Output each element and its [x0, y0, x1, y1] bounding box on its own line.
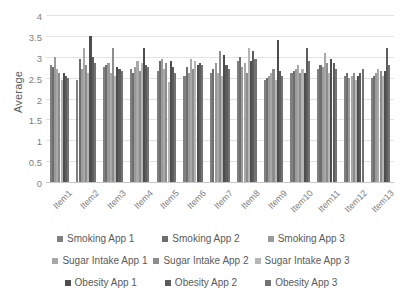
legend-item[interactable]: Smoking App 1 [57, 234, 134, 244]
bar-group [46, 16, 73, 182]
bar [67, 78, 69, 182]
bar [281, 76, 283, 182]
bar-group [153, 16, 180, 182]
y-axis-tick-label: 3.5 [2, 31, 42, 42]
legend-item[interactable]: Obesity App 1 [65, 278, 137, 288]
legend-label: Smoking App 3 [278, 234, 345, 244]
x-axis-line [46, 182, 394, 183]
legend-item[interactable]: Smoking App 2 [162, 234, 239, 244]
legend-swatch-icon [65, 280, 71, 286]
legend-label: Smoking App 1 [67, 234, 134, 244]
legend-item[interactable]: Smoking App 3 [268, 234, 345, 244]
legend-row: Sugar Intake App 1Sugar Intake App 2Suga… [0, 250, 402, 272]
x-axis-tick-label: Item13 [369, 188, 396, 215]
bar-group [314, 16, 341, 182]
legend-swatch-icon [265, 280, 271, 286]
bar [228, 69, 230, 182]
bar-group [367, 16, 394, 182]
y-axis-tick-label: 4 [2, 11, 42, 22]
legend-label: Smoking App 2 [172, 234, 239, 244]
y-axis-tick-label: 3 [2, 52, 42, 63]
x-axis-tick-label: Item5 [159, 188, 182, 211]
x-axis-tick-label: Item7 [212, 188, 235, 211]
bar [388, 65, 390, 182]
bar-group [207, 16, 234, 182]
legend-item[interactable]: Obesity App 2 [165, 278, 237, 288]
legend-label: Obesity App 3 [275, 278, 337, 288]
bar [201, 65, 203, 182]
y-axis-tick-label: 2 [2, 94, 42, 105]
x-axis-tick-label: Item3 [105, 188, 128, 211]
legend-item[interactable]: Sugar Intake App 3 [255, 256, 350, 266]
legend-item[interactable]: Obesity App 3 [265, 278, 337, 288]
bar-group [233, 16, 260, 182]
x-axis-tick-label: Item1 [51, 188, 74, 211]
y-axis-tick-label: 0.5 [2, 157, 42, 168]
legend-item[interactable]: Sugar Intake App 1 [52, 256, 147, 266]
bar [174, 73, 176, 182]
bar-group [180, 16, 207, 182]
y-axis-tick-labels: 00.511.522.533.54 [0, 16, 42, 183]
y-axis-tick-label: 1.5 [2, 115, 42, 126]
bar-chart: Average 00.511.522.533.54 Item1Item2Item… [0, 0, 402, 305]
x-axis-tick-labels: Item1Item2Item3Item4Item5Item6Item7Item8… [46, 184, 394, 230]
legend-swatch-icon [153, 258, 159, 264]
bar-group [287, 16, 314, 182]
bar-group [73, 16, 100, 182]
bar [362, 69, 364, 182]
legend-label: Sugar Intake App 1 [62, 256, 147, 266]
bar [94, 63, 96, 182]
legend-label: Obesity App 2 [175, 278, 237, 288]
legend-label: Sugar Intake App 2 [163, 256, 248, 266]
legend-row: Obesity App 1Obesity App 2Obesity App 3 [0, 272, 402, 294]
bar [147, 67, 149, 182]
bar [254, 59, 256, 182]
x-axis-tick-label: Item6 [185, 188, 208, 211]
bar-group [100, 16, 127, 182]
y-axis-tick-label: 0 [2, 178, 42, 189]
legend-item[interactable]: Sugar Intake App 2 [153, 256, 248, 266]
legend-swatch-icon [165, 280, 171, 286]
x-axis-tick-label: Item12 [342, 188, 369, 215]
bar-group [126, 16, 153, 182]
bar-group [340, 16, 367, 182]
legend-swatch-icon [268, 236, 274, 242]
x-axis-tick-label: Item8 [239, 188, 262, 211]
legend-label: Sugar Intake App 3 [265, 256, 350, 266]
legend-swatch-icon [52, 258, 58, 264]
x-axis-tick-label: Item11 [316, 188, 342, 214]
x-axis-tick-label: Item10 [289, 188, 316, 215]
x-axis-tick-label: Item2 [78, 188, 101, 211]
bar [121, 71, 123, 182]
bar-group [260, 16, 287, 182]
bar-groups [46, 16, 394, 182]
chart-legend: Smoking App 1Smoking App 2Smoking App 3S… [0, 228, 402, 294]
legend-swatch-icon [162, 236, 168, 242]
legend-swatch-icon [57, 236, 63, 242]
bar [308, 61, 310, 182]
y-axis-tick-label: 2.5 [2, 73, 42, 84]
bar [335, 69, 337, 182]
x-axis-tick-label: Item9 [266, 188, 289, 211]
legend-label: Obesity App 1 [75, 278, 137, 288]
plot-area [46, 16, 394, 183]
legend-row: Smoking App 1Smoking App 2Smoking App 3 [0, 228, 402, 250]
legend-swatch-icon [255, 258, 261, 264]
y-axis-tick-label: 1 [2, 136, 42, 147]
x-axis-tick-label: Item4 [132, 188, 155, 211]
